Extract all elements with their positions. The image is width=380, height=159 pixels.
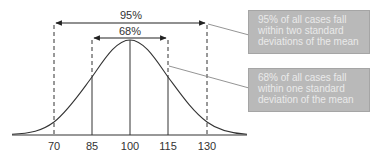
tick-label-130: 130 (198, 140, 216, 152)
annotation-68-line-3: deviation of the mean (258, 94, 364, 105)
annotation-95-line-1: 95% of all cases fall (258, 14, 364, 25)
label-95: 95% (120, 9, 142, 21)
tick-label-85: 85 (86, 140, 98, 152)
normal-distribution-figure: 95% 68% 70 85 100 115 130 95% of all cas… (0, 0, 380, 159)
annotation-95-line-2: within two standard (258, 25, 364, 36)
leader-line-95 (208, 24, 249, 35)
annotation-box-95: 95% of all cases fall within two standar… (248, 10, 370, 54)
annotation-68-line-2: within one standard (258, 83, 364, 94)
tick-label-100: 100 (121, 140, 139, 152)
annotation-95-line-3: deviations of the mean (258, 36, 364, 47)
tick-label-70: 70 (48, 140, 60, 152)
leader-line-68 (169, 66, 249, 88)
annotation-68-line-1: 68% of all cases fall (258, 72, 364, 83)
label-68: 68% (119, 25, 141, 37)
tick-label-115: 115 (159, 140, 177, 152)
annotation-box-68: 68% of all cases fall within one standar… (248, 68, 370, 112)
